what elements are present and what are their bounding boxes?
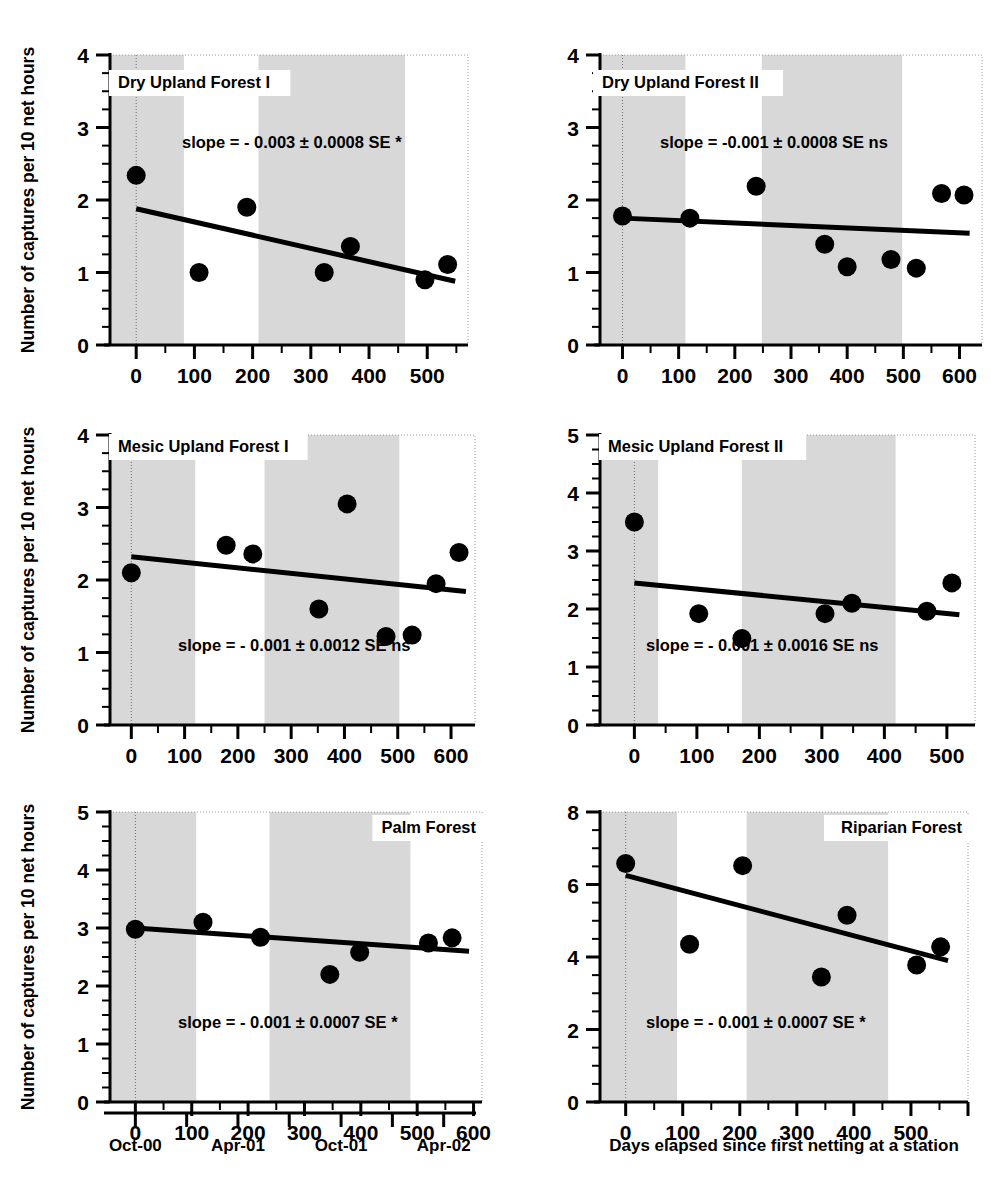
y-axis-title: Number of captures per 10 net hours [18,47,38,354]
y-tick-label: 2 [567,189,579,212]
data-point [122,563,141,582]
panel-title: Mesic Upland Forest II [608,437,783,455]
slope-annotation: slope = - 0.001 ± 0.0012 SE ns [178,636,410,654]
y-tick-label: 0 [567,1091,579,1114]
x-tick-label: 0 [629,744,641,767]
x-axis-title: Days elapsed since first netting at a st… [609,1136,959,1155]
data-point [842,594,861,613]
x-tick-label: 300 [293,364,328,387]
y-tick-label: 5 [567,424,579,447]
x-tick-label: 0 [125,744,137,767]
x-tick-label: 400 [352,364,387,387]
y-tick-label: 4 [567,946,579,969]
y-tick-label: 1 [77,262,89,285]
y-tick-label: 4 [77,859,89,882]
data-point [812,967,831,986]
panel-title: Mesic Upland Forest I [118,437,289,455]
x-tick-label: 0 [130,364,142,387]
y-tick-label: 0 [77,1091,89,1114]
x-tick-label: 300 [773,364,808,387]
x-tick-label: 100 [167,744,202,767]
data-point [320,965,339,984]
x-tick-label: 0 [617,364,629,387]
x-tick-label: 500 [380,744,415,767]
data-point [427,574,446,593]
x-tick-label: 200 [220,744,255,767]
data-point [237,198,256,217]
season-band [742,435,896,725]
data-point [315,263,334,282]
figure-panel-grid: 012340100200300400500Dry Upland Forest I… [0,0,991,1177]
data-point [838,906,857,925]
data-point [689,604,708,623]
y-tick-label: 3 [567,117,579,140]
date-axis-label: Oct-01 [315,1136,368,1155]
season-band [270,812,411,1102]
data-point [907,955,926,974]
data-point [438,255,457,274]
data-point [816,604,835,623]
x-tick-label: 300 [274,744,309,767]
y-tick-label: 2 [77,975,89,998]
x-tick-label: 200 [742,744,777,767]
season-band [747,812,888,1102]
data-point [309,600,328,619]
date-axis-label: Apr-01 [211,1136,265,1155]
slope-annotation: slope = - 0.001 ± 0.0007 SE * [646,1013,866,1031]
season-band [110,55,184,345]
y-tick-label: 4 [77,424,89,447]
x-tick-label: 100 [174,1121,209,1144]
panel-6: 024680100200300400500Riparian Forestslop… [567,801,971,1144]
date-axis-label: Apr-02 [417,1136,471,1155]
panel-5: 0123450100200300400500600Palm Forestslop… [18,801,491,1144]
panel-title: Riparian Forest [841,818,963,836]
panel-title: Dry Upland Forest II [602,73,759,91]
data-point [217,536,236,555]
y-tick-label: 2 [567,598,579,621]
data-point [443,928,462,947]
data-point [126,920,145,939]
panel-3: 012340100200300400500600Mesic Upland For… [18,424,475,767]
x-tick-label: 500 [410,364,445,387]
y-tick-label: 5 [77,801,89,824]
data-point [190,263,209,282]
x-axis-title-group: Days elapsed since first netting at a st… [609,1136,959,1155]
x-tick-label: 400 [830,364,865,387]
data-point [625,513,644,532]
x-tick-label: 300 [804,744,839,767]
data-point [917,602,936,621]
data-point [680,935,699,954]
x-tick-label: 500 [929,744,964,767]
data-point [907,259,926,278]
y-axis-title: Number of captures per 10 net hours [18,804,38,1111]
data-point [931,937,950,956]
y-tick-label: 2 [77,569,89,592]
data-point [838,257,857,276]
x-tick-label: 200 [717,364,752,387]
y-tick-label: 1 [77,1033,89,1056]
x-tick-label: 600 [433,744,468,767]
data-point [932,184,951,203]
season-band [600,812,677,1102]
x-tick-label: 200 [235,364,270,387]
y-tick-label: 4 [567,44,579,67]
data-point [350,943,369,962]
panel-2: 012340100200300400500600Dry Upland Fores… [567,44,982,387]
data-point [127,166,146,185]
y-tick-label: 1 [567,656,579,679]
data-point [338,494,357,513]
y-tick-label: 4 [567,482,579,505]
data-point [194,913,213,932]
data-point [942,573,961,592]
y-tick-label: 4 [77,44,89,67]
data-point [815,235,834,254]
data-point [341,237,360,256]
season-band [600,55,685,345]
x-tick-label: 100 [177,364,212,387]
panel-1: 012340100200300400500Dry Upland Forest I… [18,44,468,387]
season-band [110,812,196,1102]
x-tick-label: 600 [942,364,977,387]
season-band [762,55,902,345]
date-axis-label: Oct-00 [109,1136,162,1155]
y-tick-label: 1 [77,642,89,665]
